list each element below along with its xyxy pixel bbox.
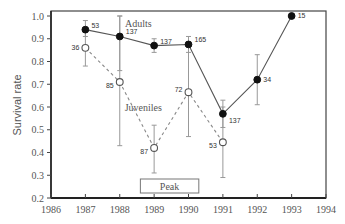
x-tick-label: 1987 — [75, 204, 95, 215]
data-point — [185, 89, 192, 96]
adults-label: Adults — [125, 18, 152, 29]
data-point — [288, 13, 295, 20]
y-tick-label: 0.2 — [32, 193, 45, 204]
x-tick-label: 1993 — [282, 204, 302, 215]
sample-size-label: 36 — [72, 44, 80, 51]
sample-size-label: 137 — [126, 28, 138, 35]
x-tick-label: 1989 — [144, 204, 164, 215]
sample-size-label: 85 — [106, 82, 114, 89]
series-adults: 531371371651373415 — [82, 12, 306, 127]
x-axis: 198619871988198919901991199219931994 — [41, 194, 336, 215]
x-tick-label: 1991 — [213, 204, 233, 215]
peak-label: Peak — [160, 181, 179, 192]
sample-size-label: 72 — [175, 86, 183, 93]
data-point — [185, 41, 192, 48]
sample-size-label: 165 — [195, 36, 207, 43]
x-tick-label: 1990 — [179, 204, 199, 215]
y-tick-label: 0.7 — [32, 79, 45, 90]
y-tick-label: 0.9 — [32, 33, 45, 44]
sample-size-label: 15 — [298, 12, 306, 19]
sample-size-label: 137 — [160, 38, 172, 45]
y-tick-label: 0.8 — [32, 56, 45, 67]
x-tick-label: 1992 — [247, 204, 267, 215]
y-tick-label: 0.3 — [32, 170, 45, 181]
series-layer: 3685877253531371371651373415 — [72, 12, 306, 178]
y-tick-label: 0.6 — [32, 102, 45, 113]
y-axis-title: Survival rate — [11, 74, 23, 135]
juveniles-label: Juveniles — [125, 102, 162, 113]
data-point — [219, 110, 226, 117]
data-point — [82, 44, 89, 51]
sample-size-label: 53 — [91, 22, 99, 29]
y-tick-label: 0.5 — [32, 124, 45, 135]
data-point — [116, 79, 123, 86]
data-point — [151, 42, 158, 49]
data-point — [116, 33, 123, 40]
y-tick-label: 1.0 — [32, 11, 45, 22]
y-tick-label: 0.4 — [32, 147, 45, 158]
data-point — [151, 145, 158, 152]
data-point — [219, 139, 226, 146]
data-point — [254, 76, 261, 83]
sample-size-label: 137 — [229, 117, 241, 124]
sample-size-label: 53 — [209, 142, 217, 149]
sample-size-label: 87 — [140, 148, 148, 155]
x-tick-label: 1988 — [110, 204, 130, 215]
data-point — [82, 26, 89, 33]
y-axis: 0.20.30.40.50.60.70.80.91.0 — [32, 11, 52, 204]
x-tick-label: 1986 — [41, 204, 61, 215]
survival-chart: 0.20.30.40.50.60.70.80.91.0 198619871988… — [0, 0, 345, 224]
x-tick-label: 1994 — [316, 204, 336, 215]
sample-size-label: 34 — [263, 76, 271, 83]
